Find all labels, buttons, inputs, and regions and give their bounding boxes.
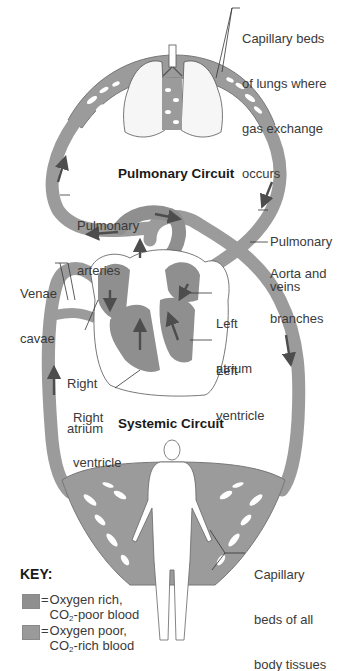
swatch-oxygen-poor: [22, 625, 40, 640]
label-right-ventricle: Right ventricle: [73, 380, 121, 485]
pulmonary-circuit-title: Pulmonary Circuit: [118, 166, 234, 181]
label-body-capillaries: Capillary beds of all body tissues where…: [254, 537, 326, 671]
label-left-ventricle: Left ventricle: [216, 333, 264, 438]
key-text-oxygen-poor: Oxygen poor, CO2-rich blood: [50, 623, 135, 653]
label-pulmonary-arteries: Pulmonary arteries: [77, 188, 139, 293]
label-lung-capillaries: Capillary beds of lungs where gas exchan…: [242, 1, 327, 196]
key-equals: =: [41, 592, 49, 607]
label-aorta: Aorta and branches: [270, 236, 326, 341]
key-title: KEY:: [20, 566, 52, 582]
label-venae-cavae: Venae cavae: [20, 256, 57, 361]
key-text-oxygen-rich: Oxygen rich, CO2-poor blood: [50, 592, 140, 622]
key-equals: =: [41, 623, 49, 638]
swatch-oxygen-rich: [22, 594, 40, 609]
key-item-oxygen-poor: = Oxygen poor, CO2-rich blood: [22, 623, 134, 653]
systemic-circuit-title: Systemic Circuit: [118, 416, 224, 431]
lungs-illustration: [124, 45, 223, 137]
key-item-oxygen-rich: = Oxygen rich, CO2-poor blood: [22, 592, 139, 622]
